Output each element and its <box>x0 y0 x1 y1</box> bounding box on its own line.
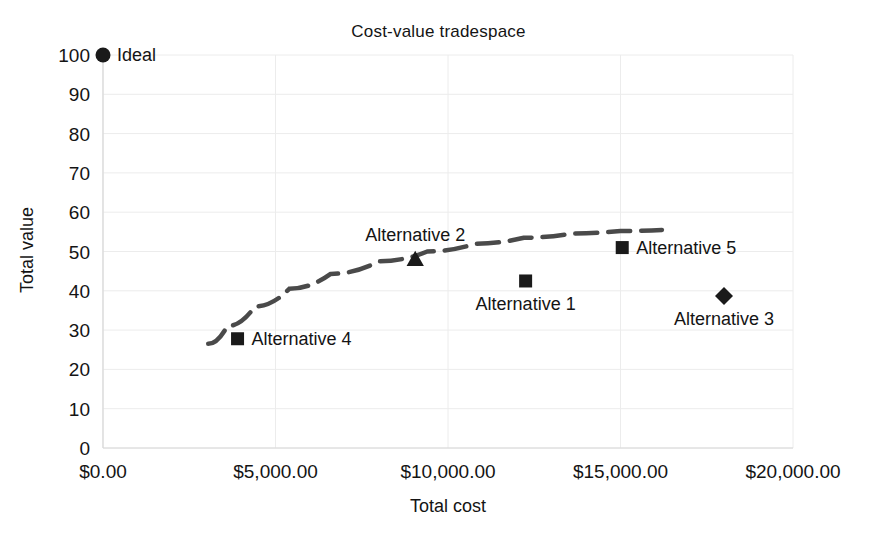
data-point-label: Alternative 2 <box>365 225 465 245</box>
data-point-labels: IdealAlternative 4Alternative 2Alternati… <box>117 45 774 349</box>
y-axis-tick-labels: 0102030405060708090100 <box>58 45 90 459</box>
x-axis-tick-label: $0.00 <box>79 461 127 482</box>
data-point-label: Alternative 3 <box>674 309 774 329</box>
marker-circle <box>96 48 111 63</box>
y-axis-tick-label: 100 <box>58 45 90 66</box>
data-point-label: Alternative 4 <box>252 329 352 349</box>
x-axis-tick-label: $10,000.00 <box>400 461 495 482</box>
x-axis-tick-labels: $0.00$5,000.00$10,000.00$15,000.00$20,00… <box>79 461 840 482</box>
marker-diamond <box>715 287 733 305</box>
chart-plot-area: 0102030405060708090100 $0.00$5,000.00$10… <box>0 0 877 540</box>
data-point-label: Alternative 1 <box>476 294 576 314</box>
data-point-label: Ideal <box>117 45 156 65</box>
marker-square <box>519 274 532 287</box>
data-point-label: Alternative 5 <box>636 238 736 258</box>
y-axis-tick-label: 90 <box>69 84 90 105</box>
y-axis-tick-label: 40 <box>69 281 90 302</box>
marker-square <box>616 241 629 254</box>
y-axis-tick-label: 30 <box>69 320 90 341</box>
x-axis-tick-label: $15,000.00 <box>573 461 668 482</box>
y-axis-tick-label: 0 <box>79 438 90 459</box>
y-axis-tick-label: 10 <box>69 399 90 420</box>
y-axis-tick-label: 20 <box>69 359 90 380</box>
y-axis-tick-label: 50 <box>69 242 90 263</box>
y-axis-tick-label: 60 <box>69 202 90 223</box>
chart-container: Cost-value tradespace 010203040506070809… <box>0 0 877 540</box>
x-axis-tick-label: $5,000.00 <box>233 461 318 482</box>
marker-square <box>231 332 244 345</box>
x-axis-title: Total cost <box>410 496 486 516</box>
y-axis-tick-label: 80 <box>69 124 90 145</box>
y-axis-tick-label: 70 <box>69 163 90 184</box>
x-axis-tick-label: $20,000.00 <box>745 461 840 482</box>
data-point-markers <box>96 48 734 346</box>
y-axis-title: Total value <box>17 207 37 293</box>
pareto-frontier-curve <box>208 230 662 344</box>
